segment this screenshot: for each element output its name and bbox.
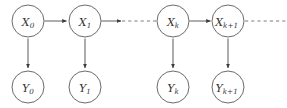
- node-sub-xk1: k+1: [223, 20, 238, 29]
- node-sub-xk: k: [175, 20, 179, 29]
- node-xk1[interactable]: Xk+1: [212, 5, 244, 37]
- figure-canvas: X0 X1 Xk Xk+1 Y0 Y1: [0, 0, 287, 108]
- node-sub-yk: k: [174, 86, 178, 95]
- emission-edges: [28, 39, 228, 69]
- node-x1[interactable]: X1: [69, 5, 101, 37]
- node-sub-yk1: k+1: [223, 86, 238, 95]
- observation-nodes: Y0 Y1 Yk Yk+1: [12, 71, 244, 103]
- graphical-model-svg: X0 X1 Xk Xk+1 Y0 Y1: [0, 0, 287, 108]
- node-y1[interactable]: Y1: [69, 71, 101, 103]
- node-sub-x0: 0: [30, 20, 35, 29]
- node-yk1[interactable]: Yk+1: [212, 71, 244, 103]
- node-x0[interactable]: X0: [12, 5, 44, 37]
- node-y0[interactable]: Y0: [12, 71, 44, 103]
- node-yk[interactable]: Yk: [157, 71, 189, 103]
- node-sub-x1: 1: [87, 20, 92, 29]
- node-xk[interactable]: Xk: [157, 5, 189, 37]
- node-sub-y1: 1: [86, 86, 91, 95]
- node-sub-y0: 0: [29, 86, 34, 95]
